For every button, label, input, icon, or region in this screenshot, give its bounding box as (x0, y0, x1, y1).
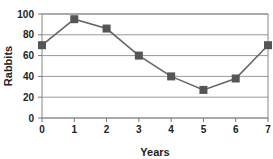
data-point-marker (135, 52, 143, 60)
x-tick-label: 0 (39, 124, 45, 135)
x-tick-label: 7 (265, 124, 271, 135)
y-tick-label: 0 (28, 113, 34, 124)
x-tick-label: 1 (72, 124, 78, 135)
x-axis-ticks: 01234567 (39, 118, 271, 135)
line-chart: 020406080100 01234567 Rabbits Years (0, 0, 273, 159)
x-tick-label: 6 (233, 124, 239, 135)
y-tick-label: 40 (23, 71, 35, 82)
y-tick-label: 100 (17, 9, 34, 20)
data-point-marker (232, 74, 240, 82)
data-markers (38, 15, 272, 94)
y-tick-label: 60 (23, 50, 35, 61)
y-tick-label: 80 (23, 29, 35, 40)
x-tick-label: 3 (136, 124, 142, 135)
y-axis-ticks: 020406080100 (17, 9, 42, 124)
x-axis-label: Years (140, 146, 169, 158)
x-tick-label: 2 (104, 124, 110, 135)
data-point-marker (199, 86, 207, 94)
x-tick-label: 4 (168, 124, 174, 135)
data-point-marker (38, 41, 46, 49)
y-axis-label: Rabbits (2, 46, 14, 86)
data-point-marker (167, 72, 175, 80)
data-point-marker (264, 41, 272, 49)
data-point-marker (103, 25, 111, 33)
y-tick-label: 20 (23, 92, 35, 103)
x-tick-label: 5 (201, 124, 207, 135)
data-point-marker (70, 15, 78, 23)
